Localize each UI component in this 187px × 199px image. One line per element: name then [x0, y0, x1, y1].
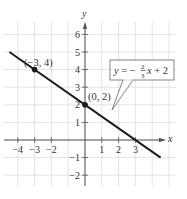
- equation-callout: y = − 2 3 x + 2: [110, 60, 174, 110]
- x-tick-label: −4: [12, 144, 23, 155]
- x-tick-label: 1: [99, 144, 104, 155]
- eq-plus-2: + 2: [152, 65, 168, 76]
- y-tick-label: 4: [75, 64, 80, 75]
- y-axis-arrow-icon: [83, 22, 87, 29]
- eq-frac-denominator: 3: [141, 72, 145, 80]
- equation-text: y = −: [113, 65, 136, 76]
- y-tick-label: −2: [69, 170, 80, 181]
- graph-figure: −4−3−2123−2−1123456 y x (−3, 4) (0, 2) y…: [0, 0, 187, 199]
- eq-frac-numerator: 2: [141, 63, 145, 71]
- y-tick-label: 5: [75, 47, 80, 58]
- eq-equals-minus: = −: [119, 65, 136, 76]
- x-axis-label: x: [167, 133, 173, 144]
- y-tick-label: 1: [75, 117, 80, 128]
- y-tick-label: −1: [69, 152, 80, 163]
- point-label-neg3-4: (−3, 4): [24, 57, 53, 69]
- y-tick-label: 3: [75, 82, 80, 93]
- coordinate-plane: −4−3−2123−2−1123456 y x (−3, 4) (0, 2) y…: [0, 0, 187, 199]
- y-axis-label: y: [81, 8, 87, 19]
- data-point-dot: [82, 102, 88, 108]
- y-tick-label: 6: [75, 29, 80, 40]
- equation-text-rest: x + 2: [146, 65, 168, 76]
- grid-lines: [4, 22, 176, 186]
- callout-pointer: [112, 80, 133, 110]
- x-tick-label: 3: [133, 144, 138, 155]
- x-tick-label: 2: [116, 144, 121, 155]
- x-tick-label: −3: [29, 144, 40, 155]
- point-label-0-2: (0, 2): [88, 91, 111, 103]
- x-axis-arrow-icon: [159, 138, 166, 142]
- x-tick-label: −2: [46, 144, 57, 155]
